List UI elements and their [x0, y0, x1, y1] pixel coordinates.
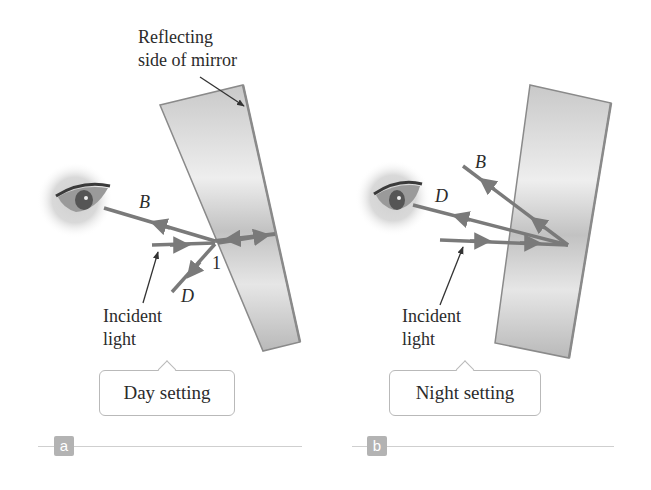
night-setting-label: Night setting [416, 382, 515, 404]
day-setting-callout: Day setting [99, 370, 235, 416]
panel-a-rule [38, 446, 302, 447]
mirror-wedge [495, 85, 611, 358]
incident-label-line2: light [103, 329, 136, 349]
panel-b-rule [352, 446, 614, 447]
ray-incident [152, 243, 215, 245]
panel-b [355, 85, 611, 358]
panel-badge-b: b [367, 436, 387, 456]
incident-label-line2: light [402, 329, 435, 349]
panel-a [37, 77, 300, 351]
incident-pointer [440, 247, 463, 305]
eye-icon [37, 162, 113, 238]
diagram-graphics [0, 0, 651, 490]
ray-label-b: B [475, 152, 486, 172]
ray-label-d: D [181, 286, 194, 306]
mirror-annotation-line1: Reflecting [138, 27, 213, 47]
panel-badge-a: a [54, 436, 74, 456]
mirror-wedge [160, 85, 300, 351]
eye-icon [355, 160, 431, 236]
day-setting-label: Day setting [123, 382, 210, 404]
ray-label-d: D [435, 186, 448, 206]
point-label-1: 1 [212, 253, 221, 273]
incident-label-line1: Incident [103, 306, 162, 326]
incident-pointer [143, 252, 158, 303]
ray-label-b: B [139, 192, 150, 212]
rearview-mirror-diagram: Reflecting side of mirror B 1 D Incident… [0, 0, 651, 490]
night-setting-callout: Night setting [389, 370, 541, 416]
incident-label-line1: Incident [402, 306, 461, 326]
mirror-annotation-line2: side of mirror [138, 50, 237, 70]
